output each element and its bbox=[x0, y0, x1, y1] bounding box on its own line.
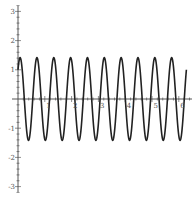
y-tick-label: -2 bbox=[8, 154, 15, 162]
x-tick-label: 4 bbox=[127, 102, 132, 110]
x-tick-label: 1 bbox=[46, 102, 50, 110]
y-tick-label: 2 bbox=[11, 37, 15, 45]
x-tick-label: 2 bbox=[73, 102, 77, 110]
x-tick-label: 3 bbox=[100, 102, 104, 110]
y-tick-label: 1 bbox=[11, 66, 15, 74]
y-tick-label: -3 bbox=[8, 183, 15, 191]
axes bbox=[12, 6, 192, 193]
plot-area: 123456321-1-2-3 bbox=[0, 0, 196, 197]
x-tick-label: 5 bbox=[154, 102, 158, 110]
x-tick-label: 6 bbox=[180, 102, 185, 110]
y-tick-label: -1 bbox=[8, 125, 15, 133]
y-tick-label: 3 bbox=[11, 8, 15, 16]
